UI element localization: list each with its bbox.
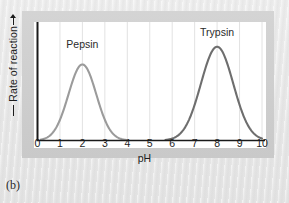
x-tick-label: 9 — [232, 137, 248, 149]
plot-inner: Pepsin Trypsin — [34, 22, 266, 148]
plot-area: Pepsin Trypsin — [34, 22, 266, 148]
x-tick-label: 8 — [209, 137, 225, 149]
series-label-pepsin: Pepsin — [66, 38, 98, 50]
figure-frame: Pepsin Trypsin — [22, 11, 274, 158]
curve-trypsin — [165, 47, 262, 140]
arrow-up-icon — [9, 14, 18, 25]
x-tick-label: 5 — [142, 137, 158, 149]
dash-icon — [9, 104, 18, 118]
curve-pepsin — [41, 64, 127, 140]
x-tick-label: 6 — [164, 137, 180, 149]
y-axis-label: Rate of reaction — [4, 14, 22, 142]
x-tick-label: 2 — [74, 137, 90, 149]
x-axis-title: pH — [0, 152, 289, 164]
figure-caption: (b) — [6, 178, 20, 193]
x-tick-label: 7 — [187, 137, 203, 149]
series-label-trypsin: Trypsin — [200, 26, 234, 38]
x-tick-label: 3 — [97, 137, 113, 149]
x-tick-label: 1 — [52, 137, 68, 149]
x-tick-label: 4 — [119, 137, 135, 149]
y-axis-title: Rate of reaction — [7, 26, 19, 102]
x-tick-label: 0 — [30, 137, 46, 149]
x-tick-label: 10 — [254, 137, 270, 149]
data-curves — [41, 47, 262, 140]
